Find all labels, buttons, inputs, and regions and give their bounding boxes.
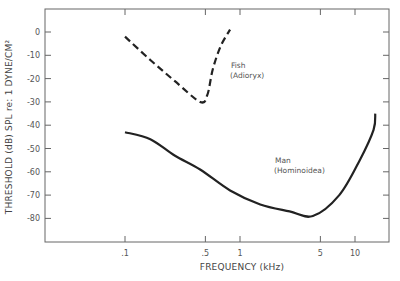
fish-threshold-curve xyxy=(125,30,230,103)
x-tick-label: .5 xyxy=(202,249,210,258)
y-tick-label: -80 xyxy=(27,214,40,223)
x-axis-title: FREQUENCY (kHz) xyxy=(200,262,284,272)
y-axis-title: THRESHOLD (dB) SPL re: 1 DYNE/CM² xyxy=(4,40,14,216)
fish-sublabel: (Adioryx) xyxy=(230,71,264,80)
threshold-chart: 0-10-20-30-40-50-60-70-80 .1.51510 FREQU… xyxy=(0,0,400,281)
man-sublabel: (Hominoidea) xyxy=(274,166,325,175)
y-tick-label: 0 xyxy=(35,28,40,37)
y-tick-label: -60 xyxy=(27,168,40,177)
y-tick-label: -20 xyxy=(27,75,40,84)
fish-label: Fish xyxy=(231,61,246,70)
x-tick-label: .1 xyxy=(121,249,129,258)
x-tick-label: 5 xyxy=(318,249,323,258)
y-tick-label: -40 xyxy=(27,121,40,130)
x-tick-label: 10 xyxy=(350,249,360,258)
plot-frame xyxy=(45,9,389,242)
man-label: Man xyxy=(275,156,291,165)
y-tick-label: -70 xyxy=(27,191,40,200)
x-tick-label: 1 xyxy=(237,249,242,258)
y-tick-label: -50 xyxy=(27,145,40,154)
y-tick-label: -30 xyxy=(27,98,40,107)
man-threshold-curve xyxy=(125,114,375,217)
y-tick-label: -10 xyxy=(27,51,40,60)
